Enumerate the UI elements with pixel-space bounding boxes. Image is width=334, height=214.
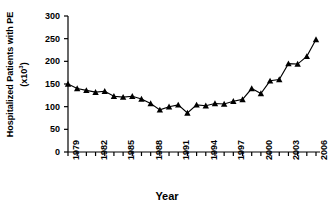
x-axis-tick-label: 1985 — [127, 140, 136, 160]
y-axis-tick-label: 100 — [34, 103, 60, 112]
x-axis-tick-label: 2006 — [320, 140, 329, 160]
data-point-marker — [147, 100, 153, 106]
y-axis-tick-label: 150 — [34, 80, 60, 89]
data-point-marker — [313, 36, 319, 42]
chart-figure: Hospitalized Patients with PE (x103) Yea… — [0, 0, 334, 214]
data-point-marker — [74, 85, 80, 91]
y-axis-tick-label: 0 — [34, 148, 60, 157]
data-point-marker — [276, 76, 282, 82]
x-axis-tick-label: 2000 — [265, 140, 274, 160]
data-point-marker — [249, 85, 255, 91]
data-line — [68, 40, 316, 113]
x-axis-tick-label: 1982 — [100, 140, 109, 160]
x-axis-tick-label: 1991 — [182, 140, 191, 160]
x-axis-tick-label: 1994 — [210, 140, 219, 160]
y-axis-tick-label: 50 — [34, 125, 60, 134]
y-axis-tick-label: 200 — [34, 57, 60, 66]
x-axis-tick-label: 2003 — [292, 140, 301, 160]
data-point-marker — [175, 102, 181, 108]
y-axis-tick-label: 300 — [34, 12, 60, 21]
y-axis-tick-label: 250 — [34, 35, 60, 44]
data-point-marker — [304, 53, 310, 59]
x-axis-tick-label: 1997 — [237, 140, 246, 160]
x-axis-tick-label: 1988 — [155, 140, 164, 160]
x-axis-tick-label: 1979 — [72, 140, 81, 160]
